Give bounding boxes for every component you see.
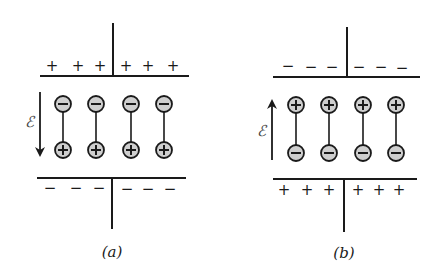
top-plate-b: − − − − − − [273,27,420,77]
plate-charge-sign: − [282,57,295,75]
field-symbol: ℰ [257,122,268,140]
plate-charge-sign: + [46,57,59,75]
caption-a: (a) [102,243,123,261]
plate-charge-sign: + [301,181,314,199]
dipole [55,96,71,158]
plate-charge-sign: − [93,179,106,197]
dipole [355,97,371,161]
caption-b: (b) [333,244,354,262]
plate-charge-sign: − [44,179,57,197]
plate-charge-sign: − [375,58,388,76]
dipoles-b [288,97,404,161]
field-symbol: ℰ [25,113,36,131]
top-plate-a: + + + + + + [40,23,189,76]
plate-charge-sign: + [352,181,365,199]
plate-charge-sign: − [353,58,366,76]
bottom-plate-b: + + + + + + [273,179,417,232]
diagram-a: + + + + + + ℰ [25,23,190,261]
plate-charge-sign: + [142,57,155,75]
plate-charge-sign: − [396,59,409,77]
dipoles-a [55,96,172,158]
dipole-diagram-canvas: + + + + + + ℰ [0,0,441,275]
plate-charge-sign: − [121,180,134,198]
diagram-b: − − − − − − ℰ [257,27,421,262]
plate-charge-sign: + [167,57,180,75]
plate-charge-sign: − [142,180,155,198]
dipole [123,96,139,158]
plate-charge-sign: − [164,180,177,198]
plate-charge-sign: + [94,57,107,75]
field-arrow-b: ℰ [257,104,273,160]
plate-charge-sign: + [72,57,85,75]
plate-charge-sign: + [278,181,291,199]
dipole [88,96,104,158]
dipole [288,97,304,161]
plate-charge-sign: + [393,181,406,199]
plate-charge-sign: − [305,58,318,76]
bottom-plate-a: − − − − − − [37,178,186,229]
field-arrow-a: ℰ [25,92,41,152]
dipole [156,96,172,158]
plate-charge-sign: − [326,58,339,76]
dipole [321,97,337,161]
dipole [388,97,404,161]
plate-charge-sign: + [373,181,386,199]
plate-charge-sign: + [120,57,133,75]
plate-charge-sign: − [70,179,83,197]
plate-charge-sign: + [323,181,336,199]
